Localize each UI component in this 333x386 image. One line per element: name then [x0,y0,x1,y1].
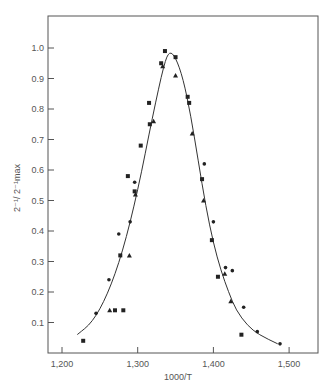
square-marker [174,55,178,59]
y-tick-label: 0.1 [31,318,44,328]
circle-marker [278,342,282,346]
circle-marker [231,269,235,273]
y-tick-label: 0.3 [31,257,44,267]
triangle-marker [173,73,178,78]
circle-marker [133,180,137,184]
y-axis: 0.10.20.30.40.50.60.70.80.91.0 [31,43,54,328]
y-axis-title: 2⁻¹/ 2⁻¹max [12,163,22,212]
square-marker [147,101,151,105]
circle-marker [224,266,228,270]
square-marker [126,174,130,178]
square-marker [210,238,214,242]
y-tick-label: 0.5 [31,196,44,206]
plot-frame [48,16,318,353]
triangle-marker [127,253,132,258]
y-tick-label: 0.6 [31,165,44,175]
square-marker [200,177,204,181]
square-marker [121,308,125,312]
circle-marker [203,162,207,166]
square-marker [187,101,191,105]
x-tick-label: 1,400 [202,359,225,369]
x-axis: 1,2001,3001,4001,500 [51,347,301,369]
y-tick-label: 0.7 [31,135,44,145]
circle-marker [107,278,111,282]
y-tick-label: 0.8 [31,104,44,114]
circle-marker [94,312,98,316]
x-tick-label: 1,500 [278,359,301,369]
triangle-marker [222,271,227,276]
circle-marker [242,305,246,309]
y-tick-label: 1.0 [31,43,44,53]
fitted-curve [77,53,278,344]
square-marker [81,339,85,343]
circle-marker [117,232,121,236]
triangle-marker [107,308,112,313]
square-marker [239,333,243,337]
square-marker [118,253,122,257]
square-marker [139,144,143,148]
x-axis-title: 1000/T [164,372,193,382]
circle-marker [212,220,216,224]
y-tick-label: 0.9 [31,74,44,84]
x-tick-label: 1,300 [126,359,149,369]
square-marker [133,189,137,193]
y-tick-label: 0.2 [31,287,44,297]
y-tick-label: 0.4 [31,226,44,236]
square-marker [163,49,167,53]
x-tick-label: 1,200 [51,359,74,369]
square-marker [186,95,190,99]
square-marker [113,308,117,312]
square-marker [148,122,152,126]
circle-marker [128,220,132,224]
data-points [81,49,282,346]
square-marker [216,275,220,279]
chart: 0.10.20.30.40.50.60.70.80.91.0 1,2001,30… [0,0,333,386]
circle-marker [256,330,260,334]
